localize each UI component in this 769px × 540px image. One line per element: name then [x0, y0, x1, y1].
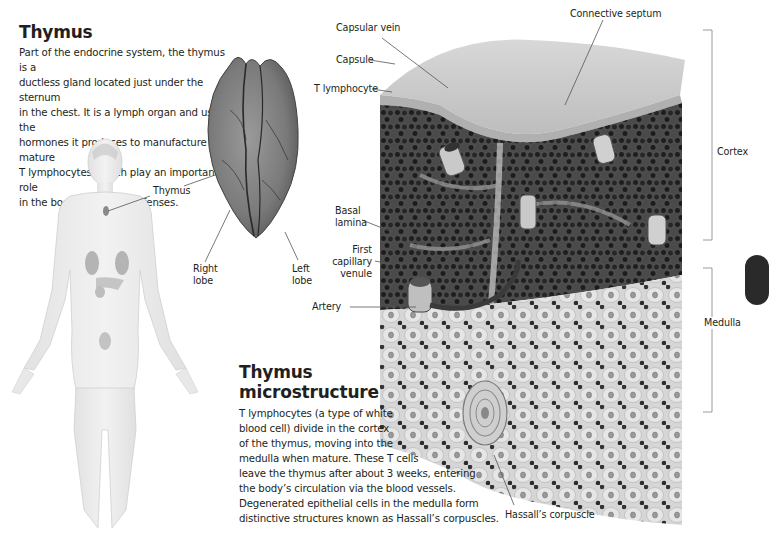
- microstructure-line: medulla when mature. These T cells: [239, 451, 464, 466]
- page-edge-tab: [745, 255, 769, 305]
- microstructure-line: Degenerated epithelial cells in the medu…: [239, 496, 464, 511]
- microstructure-title: Thymus microstructure: [239, 362, 379, 402]
- microstructure-line: T lymphocytes (a type of white: [239, 406, 464, 421]
- label-capsule: Capsule: [336, 54, 374, 66]
- microstructure-line: distinctive structures known as Hassall’…: [239, 511, 464, 526]
- microstructure-line: leave the thymus after about 3 weeks, en…: [239, 466, 464, 481]
- microstructure-line: the body’s circulation via the blood ves…: [239, 481, 464, 496]
- microstructure-paragraph: T lymphocytes (a type of white blood cel…: [239, 406, 464, 526]
- label-artery: Artery: [312, 301, 341, 313]
- label-first-capillary-venule: First capillary venule: [328, 244, 372, 280]
- label-t-lymphocyte: T lymphocyte: [314, 83, 378, 95]
- label-medulla: Medulla: [703, 317, 742, 329]
- label-cortex: Cortex: [717, 146, 748, 158]
- label-capsular-vein: Capsular vein: [336, 22, 400, 34]
- label-connective-septum: Connective septum: [570, 8, 661, 20]
- label-hassalls-corpuscle: Hassall’s corpuscle: [505, 509, 595, 521]
- label-basal-lamina: Basal lamina: [335, 205, 367, 229]
- microstructure-line: blood cell) divide in the cortex: [239, 421, 464, 436]
- microstructure-line: of the thymus, moving into the: [239, 436, 464, 451]
